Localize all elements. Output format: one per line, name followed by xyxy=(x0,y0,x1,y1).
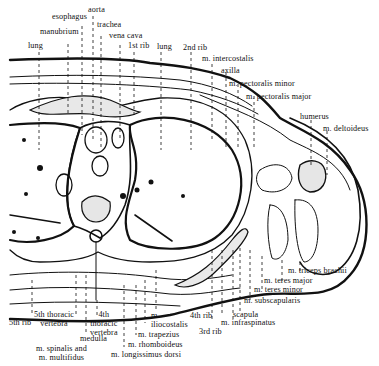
left-lung xyxy=(10,123,80,242)
label-m-infraspinatus: m. infraspinatus xyxy=(221,318,275,327)
aorta-shape xyxy=(56,174,72,196)
label-fifth-thoracic-vertebra: 5th thoracic vertebra xyxy=(34,310,74,328)
label-m-spinalis-multifidus: m. spinalis and m. multifidus xyxy=(36,344,87,362)
label-m-teres-major: m. teres major xyxy=(264,276,312,285)
label-medulla: medulla xyxy=(80,334,107,343)
lung-fissure-right xyxy=(135,215,172,241)
humerus-shape xyxy=(298,161,325,192)
label-first-rib: 1st rib xyxy=(128,41,149,50)
label-m-trapezius: m. trapezius xyxy=(138,330,179,339)
label-esophagus: esophagus xyxy=(52,12,87,21)
label-fifth-rib: 5th rib xyxy=(9,318,31,327)
label-second-rib: 2nd rib xyxy=(183,43,207,52)
vena-cava-shape xyxy=(112,128,124,148)
esophagus-shape xyxy=(92,156,108,176)
label-fourth-thoracic-vertebra: 4th thoracic vertebra xyxy=(90,310,118,337)
manubrium xyxy=(30,96,140,117)
arm-muscle-3 xyxy=(268,205,288,259)
label-m-longissimus-dorsi: m. longissimus dorsi xyxy=(111,350,181,359)
arm-muscle-2 xyxy=(295,200,318,262)
label-manubrium: manubrium xyxy=(40,27,79,36)
vertebra-body xyxy=(82,196,111,222)
label-m-subscapularis: m. subscapularis xyxy=(244,296,300,305)
label-humerus: humerus xyxy=(300,112,329,121)
label-m-pectoralis-minor: m. pectoralis minor xyxy=(229,79,295,88)
label-aorta: aorta xyxy=(88,5,105,14)
label-axilla: axilla xyxy=(221,66,240,75)
back-line-3 xyxy=(10,302,180,306)
label-m-triceps-brachii: m. triceps brachii xyxy=(288,266,347,275)
back-line-2 xyxy=(10,287,240,294)
label-third-rib: 3rd rib xyxy=(199,327,222,336)
label-m-iliocostalis: m. iliocostalis xyxy=(151,311,188,329)
right-lung xyxy=(126,118,241,249)
pectoralis-contour xyxy=(200,95,350,190)
label-trachea: trachea xyxy=(97,20,121,29)
label-m-rhomboideus: m. rhomboideus xyxy=(128,340,183,349)
trachea-shape xyxy=(85,127,107,153)
deltoid-contour xyxy=(290,118,360,274)
label-m-teres-minor: m. teres minor xyxy=(254,285,303,294)
label-m-deltoideus: m. deltoideus xyxy=(323,124,368,133)
label-fourth-rib: 4th rib xyxy=(190,311,212,320)
label-vena-cava: vena cava xyxy=(109,31,142,40)
label-m-intercostalis: m. intercostalis xyxy=(202,54,254,63)
arm-muscle-1 xyxy=(256,165,292,192)
label-lung-left: lung xyxy=(28,41,43,50)
label-m-pectoralis-major: m. pectoralis major xyxy=(246,92,311,101)
lung-fissure-left xyxy=(10,215,60,223)
label-lung-right: lung xyxy=(157,42,172,51)
